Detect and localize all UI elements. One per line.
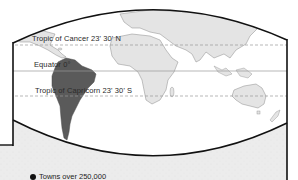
town-dot-icon [30, 174, 36, 180]
tropic-of-cancer-label: Tropic of Cancer 23' 30' N [32, 34, 121, 43]
tropic-of-capricorn-label: Tropic of Capricorn 23' 30' S [35, 86, 132, 95]
equator-label: Equator 0° [34, 60, 71, 69]
legend-label-towns: Towns over 250,000 [39, 172, 106, 180]
legend: Towns over 250,000 [30, 172, 106, 180]
